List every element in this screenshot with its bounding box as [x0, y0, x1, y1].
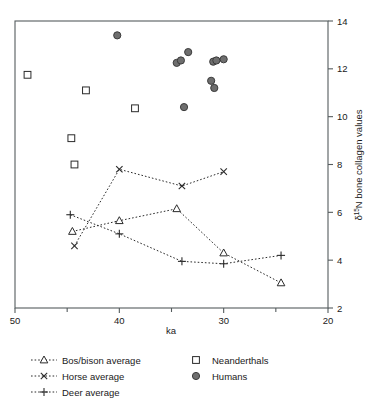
data-point-humans-6	[220, 56, 227, 63]
data-point-deer-average-3	[220, 260, 228, 268]
data-point-neanderthals-1	[83, 87, 90, 94]
data-point-bos-bison-average-4	[277, 279, 285, 286]
series-lines-group	[70, 169, 281, 283]
data-point-humans-2	[177, 57, 184, 64]
chart-figure: 50403020 2468101214 ka δ15N bone collage…	[0, 0, 370, 405]
x-tick-label: 20	[323, 315, 334, 326]
data-point-deer-average-0	[66, 211, 74, 219]
legend-item-deer-average[interactable]: Deer average	[31, 387, 120, 398]
y-tick-label: 6	[337, 207, 342, 218]
data-point-horse-average-2	[179, 183, 185, 189]
data-point-humans-0	[114, 32, 121, 39]
y-axis-title-rest: N bone collagen values	[353, 109, 364, 208]
y-tick-label: 12	[337, 63, 348, 74]
series-line-bos-bison-average	[72, 209, 281, 283]
chart-legend: Bos/bison averageHorse averageDeer avera…	[31, 355, 269, 398]
legend-label-bos-bison-average: Bos/bison average	[62, 355, 141, 366]
data-point-bos-bison-average-0	[69, 227, 77, 234]
y-tick-label: 8	[337, 159, 342, 170]
y-axis-tick-labels: 2468101214	[337, 16, 348, 314]
data-point-neanderthals-0	[24, 71, 31, 78]
y-tick-label: 14	[337, 16, 348, 27]
legend-label-horse-average: Horse average	[62, 371, 124, 382]
data-point-bos-bison-average-2	[173, 205, 181, 212]
series-markers-group	[24, 32, 285, 286]
y-tick-label: 10	[337, 111, 348, 122]
data-point-deer-average-2	[178, 257, 186, 265]
data-point-humans-9	[180, 104, 187, 111]
y-tick-label: 4	[337, 255, 342, 266]
legend-item-bos-bison-average[interactable]: Bos/bison average	[31, 355, 141, 366]
svg-text:δ15N bone collagen values: δ15N bone collagen values	[353, 109, 364, 220]
legend-marker-humans	[192, 372, 199, 379]
data-point-neanderthals-2	[132, 105, 139, 112]
legend-item-horse-average[interactable]: Horse average	[31, 371, 124, 382]
data-point-horse-average-3	[220, 168, 226, 174]
data-point-horse-average-1	[116, 166, 122, 172]
data-point-deer-average-1	[115, 230, 123, 238]
x-axis-ticks	[15, 308, 328, 313]
x-tick-label: 50	[10, 315, 21, 326]
legend-label-deer-average: Deer average	[62, 387, 120, 398]
scatter-line-chart: 50403020 2468101214 ka δ15N bone collage…	[0, 0, 370, 405]
y-tick-label: 2	[337, 303, 342, 314]
x-tick-label: 30	[218, 315, 229, 326]
data-point-horse-average-0	[71, 243, 77, 249]
legend-item-humans[interactable]: Humans	[192, 371, 247, 382]
legend-label-neanderthals: Neanderthals	[212, 355, 269, 366]
y-axis-ticks	[328, 21, 333, 308]
legend-item-neanderthals[interactable]: Neanderthals	[193, 355, 269, 366]
data-point-neanderthals-3	[68, 135, 75, 142]
data-point-humans-8	[211, 84, 218, 91]
data-point-bos-bison-average-3	[220, 249, 228, 256]
legend-marker-deer-average	[40, 388, 48, 396]
data-point-humans-5	[213, 57, 220, 64]
data-point-humans-3	[185, 48, 192, 55]
y-axis-title: δ15N bone collagen values	[353, 109, 364, 220]
legend-marker-neanderthals	[193, 357, 200, 364]
legend-label-humans: Humans	[212, 371, 248, 382]
plot-frame	[15, 21, 328, 308]
data-point-deer-average-4	[277, 251, 285, 259]
series-line-horse-average	[74, 169, 223, 246]
data-point-humans-7	[208, 77, 215, 84]
data-point-neanderthals-4	[71, 161, 78, 168]
legend-marker-bos-bison-average	[40, 356, 48, 363]
x-axis-title: ka	[166, 325, 177, 336]
x-tick-label: 40	[114, 315, 125, 326]
series-line-deer-average	[70, 215, 281, 264]
